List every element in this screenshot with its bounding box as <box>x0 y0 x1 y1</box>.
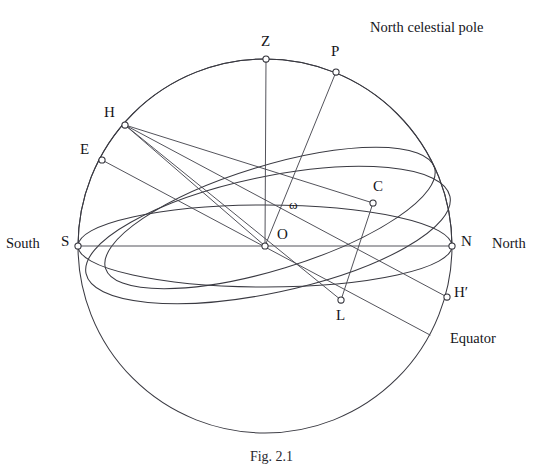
point-label-E: E <box>80 142 89 157</box>
diurnal-circle <box>90 118 449 318</box>
line-H-Hprime <box>125 125 447 297</box>
point-marker-E <box>99 157 105 163</box>
celestial-equator <box>74 140 462 331</box>
label-north: North <box>492 236 526 251</box>
line-C-L <box>341 203 373 300</box>
figure-caption: Fig. 2.1 <box>0 449 543 465</box>
omega-angle-label: ω <box>289 197 298 213</box>
point-marker-N <box>449 243 455 249</box>
point-marker-C <box>370 200 376 206</box>
point-label-N: N <box>461 234 472 249</box>
point-label-O: O <box>277 227 288 242</box>
point-label-S: S <box>61 234 69 249</box>
point-marker-P <box>333 69 339 75</box>
point-label-H: H <box>104 105 115 120</box>
line-O-Z <box>265 59 266 246</box>
label-equator: Equator <box>450 331 496 346</box>
point-marker-Hprime <box>444 294 450 300</box>
point-label-P: P <box>331 44 339 59</box>
point-marker-H <box>122 122 128 128</box>
point-label-C: C <box>373 179 383 194</box>
line-O-P <box>265 72 336 246</box>
point-marker-O <box>262 243 268 249</box>
label-north-celestial-pole: North celestial pole <box>370 20 484 35</box>
point-marker-S <box>75 243 81 249</box>
point-marker-L <box>338 297 344 303</box>
point-label-Z: Z <box>261 34 270 49</box>
point-label-L: L <box>336 308 345 323</box>
label-south: South <box>6 236 40 251</box>
point-marker-Z <box>263 56 269 62</box>
point-label-H-prime: H′ <box>454 285 468 300</box>
line-H-O <box>125 125 265 246</box>
